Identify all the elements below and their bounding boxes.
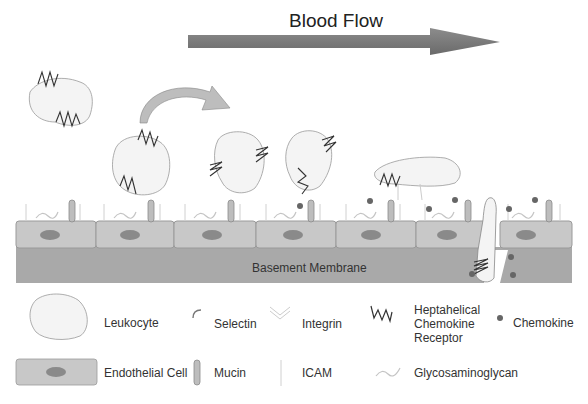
legend-chemokine-icon: [497, 315, 503, 321]
diagram-canvas: [0, 0, 588, 404]
legend-label-leukocyte: Leukocyte: [104, 316, 159, 330]
legend-mucin-icon: [194, 360, 200, 385]
receptor-line-3: Receptor: [414, 331, 480, 345]
blood-flow-arrow-icon: [188, 28, 500, 55]
icam-icons: [26, 204, 560, 221]
legend-gag-icon: [376, 368, 400, 376]
receptor-line-2: Chemokine: [414, 317, 480, 331]
glycosaminoglycan-icons: [36, 212, 534, 218]
tethering-leukocyte: [112, 130, 169, 195]
legend-receptor-icon: [371, 306, 392, 321]
legend-selectin-icon: [193, 310, 201, 318]
rolling-leukocyte: [210, 132, 268, 193]
legend-label-receptor: Heptahelical Chemokine Receptor: [414, 303, 480, 345]
legend-leukocyte-icon: [30, 294, 87, 339]
legend-label-integrin: Integrin: [302, 317, 342, 331]
receptor-line-1: Heptahelical: [414, 303, 480, 317]
leukocyte-extravasation-diagram: Blood Flow Basement Membrane Leukocyte S…: [0, 0, 588, 404]
blood-flow-title: Blood Flow: [289, 10, 383, 32]
legend-label-selectin: Selectin: [214, 317, 257, 331]
chemokine-icons: [297, 197, 538, 212]
adherent-leukocyte: [375, 157, 461, 200]
rolling-arrow-icon: [140, 86, 230, 123]
legend-endothelial-icon: [16, 359, 97, 385]
mucin-icons: [69, 200, 552, 222]
legend-label-glycosaminoglycan: Glycosaminoglycan: [414, 366, 518, 380]
legend-label-chemokine: Chemokine: [513, 316, 574, 330]
legend-integrin-icon: [270, 307, 290, 319]
legend-label-endothelial: Endothelial Cell: [104, 366, 187, 380]
activating-leukocyte: [286, 131, 336, 194]
legend-label-mucin: Mucin: [214, 366, 246, 380]
free-leukocyte: [29, 72, 92, 126]
basement-membrane-label: Basement Membrane: [252, 261, 367, 275]
legend-label-icam: ICAM: [302, 366, 332, 380]
